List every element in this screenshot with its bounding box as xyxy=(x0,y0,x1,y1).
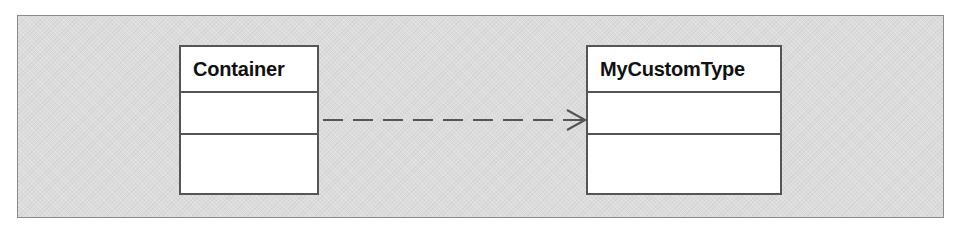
dependency-arrow xyxy=(0,0,960,232)
attributes-compartment xyxy=(588,93,780,135)
operations-compartment xyxy=(588,135,780,193)
class-name-compartment: MyCustomType xyxy=(588,47,780,93)
uml-class-mycustomtype: MyCustomType xyxy=(586,45,782,195)
